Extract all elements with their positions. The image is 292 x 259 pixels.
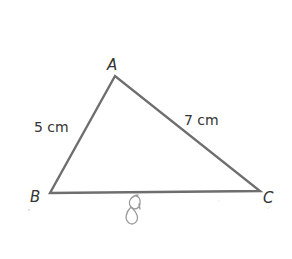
- scan-speck: [218, 200, 219, 201]
- side-label-ac: 7 cm: [184, 112, 219, 128]
- handwritten-eight: [126, 195, 140, 224]
- scan-speck: [267, 207, 268, 208]
- triangle-diagram: A B C 5 cm 7 cm: [0, 0, 292, 259]
- vertex-label-a: A: [106, 56, 117, 74]
- side-label-ab: 5 cm: [34, 119, 69, 135]
- vertex-label-c: C: [263, 189, 274, 207]
- scan-speck: [191, 131, 192, 132]
- triangle-abc: [50, 76, 260, 193]
- scan-speck: [28, 209, 30, 211]
- vertex-label-b: B: [30, 188, 40, 206]
